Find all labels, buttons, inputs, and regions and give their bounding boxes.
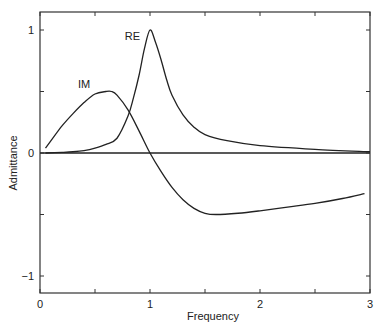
y-axis-label: Admittance bbox=[7, 135, 19, 190]
y-tick-label: −1 bbox=[21, 270, 34, 282]
admittance-chart: 0123−101FrequencyAdmittance REIM bbox=[0, 0, 383, 326]
x-tick-label: 3 bbox=[367, 298, 373, 310]
plot-labels: REIM bbox=[78, 30, 140, 90]
x-tick-label: 2 bbox=[257, 298, 263, 310]
y-tick-label: 1 bbox=[28, 24, 34, 36]
plot-series bbox=[46, 30, 371, 215]
series-label-re: RE bbox=[125, 30, 140, 42]
plot-axes: 0123−101FrequencyAdmittance bbox=[7, 12, 373, 322]
x-tick-label: 0 bbox=[37, 298, 43, 310]
y-tick-label: 0 bbox=[28, 147, 34, 159]
series-label-im: IM bbox=[78, 78, 90, 90]
x-tick-label: 1 bbox=[147, 298, 153, 310]
series-line-re bbox=[46, 30, 371, 153]
x-axis-label: Frequency bbox=[187, 310, 239, 322]
